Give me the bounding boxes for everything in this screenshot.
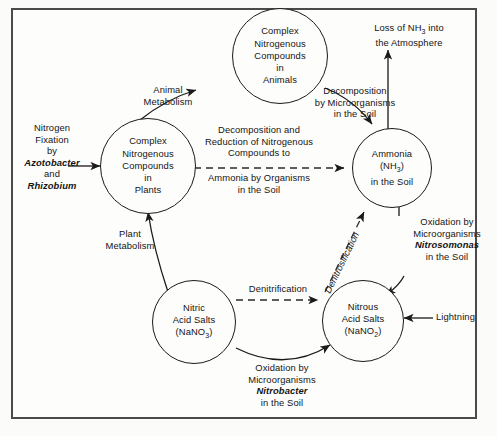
label-line: Lightning	[436, 311, 494, 323]
label-line: the Atmosphere	[334, 37, 484, 49]
label-line: in the Soil	[222, 397, 342, 409]
node-line: in	[144, 172, 152, 184]
label-line: in the Soil	[175, 184, 343, 196]
node-line: Compounds	[122, 160, 173, 172]
node-line: Plants	[135, 184, 162, 196]
label-line: Fixation	[5, 134, 99, 146]
label-line: Animal	[118, 84, 218, 96]
label-oxidation-nitrosomonas: Oxidation by Microorganisms Nitrosomonas…	[398, 216, 496, 262]
label-line: Compounds to	[175, 147, 343, 159]
nitrogen-cycle-diagram: Complex Nitrogenous Compounds in Animals…	[0, 0, 497, 436]
node-nitrous-acid-salts[interactable]: Nitrous Acid Salts (NaNO2)	[322, 280, 404, 362]
label-line: Denitrification	[222, 283, 334, 295]
label-line: in the Soil	[398, 251, 496, 263]
label-lightning: Lightning	[436, 311, 494, 323]
label-line: in the Soil	[300, 108, 410, 120]
node-line: Nitrous	[348, 301, 378, 313]
label-decomposition-reduction-top: Decomposition and Reduction of Nitrogeno…	[175, 124, 343, 159]
node-line: Ammonia	[372, 148, 412, 160]
node-line: in	[276, 62, 284, 74]
label-denitrification: Denitrification	[222, 283, 334, 295]
label-line: Decomposition	[300, 85, 410, 97]
label-oxidation-nitrobacter: Oxidation by Microorganisms Nitrobacter …	[222, 362, 342, 408]
label-decomposition-by-microorganisms: Decomposition by Microorganisms in the S…	[300, 85, 410, 120]
label-plant-metabolism: Plant Metabolism	[82, 228, 178, 251]
node-line: Animals	[263, 74, 297, 86]
label-nitrogen-fixation: Nitrogen Fixation by Azotobacter and Rhi…	[5, 122, 99, 192]
node-line: Nitric	[183, 302, 205, 314]
label-line: Microorganisms	[398, 228, 496, 240]
label-line: Decomposition and	[175, 124, 343, 136]
label-line-genus: Nitrobacter	[222, 385, 342, 397]
node-line: Compounds	[254, 50, 305, 62]
label-decomposition-reduction-bottom: Ammonia by Organisms in the Soil	[175, 172, 343, 195]
node-line: Complex	[261, 25, 299, 37]
label-animal-metabolism: Animal Metabolism	[118, 84, 218, 107]
label-line: Metabolism	[82, 240, 178, 252]
label-line-genus: Nitrosomonas	[398, 239, 496, 251]
label-line: Microorganisms	[222, 374, 342, 386]
node-line: in the Soil	[371, 176, 413, 188]
label-loss-of-ammonia: Loss of NH3 into the Atmosphere	[334, 22, 484, 49]
label-line: Oxidation by	[398, 216, 496, 228]
node-line: Acid Salts	[173, 314, 216, 326]
label-line: Loss of NH3 into	[334, 22, 484, 37]
label-line-genus: Azotobacter	[5, 157, 99, 169]
node-ammonia-in-the-soil[interactable]: Ammonia (NH3) in the Soil	[352, 128, 432, 208]
label-line-genus: Rhizobium	[5, 180, 99, 192]
label-line: Nitrogen	[5, 122, 99, 134]
node-line-formula: (NaNO2)	[345, 325, 382, 341]
label-line: Metabolism	[118, 96, 218, 108]
label-line: Oxidation by	[222, 362, 342, 374]
node-line: Acid Salts	[342, 313, 385, 325]
arrow-nitric-to-plants	[148, 212, 168, 292]
node-line-formula: (NH3)	[380, 160, 404, 176]
node-line: Complex	[129, 135, 167, 147]
label-line: Reduction of Nitrogenous	[175, 136, 343, 148]
node-line: Nitrogenous	[122, 148, 174, 160]
label-line: Ammonia by Organisms	[175, 172, 343, 184]
node-line: Nitrogenous	[254, 38, 306, 50]
node-line-formula: (NaNO3)	[176, 326, 213, 342]
label-line: by	[5, 145, 99, 157]
label-line: and	[5, 168, 99, 180]
arrow-nitrous-to-nitric	[236, 345, 330, 360]
label-line: Plant	[82, 228, 178, 240]
label-line: by Microorganisms	[300, 97, 410, 109]
